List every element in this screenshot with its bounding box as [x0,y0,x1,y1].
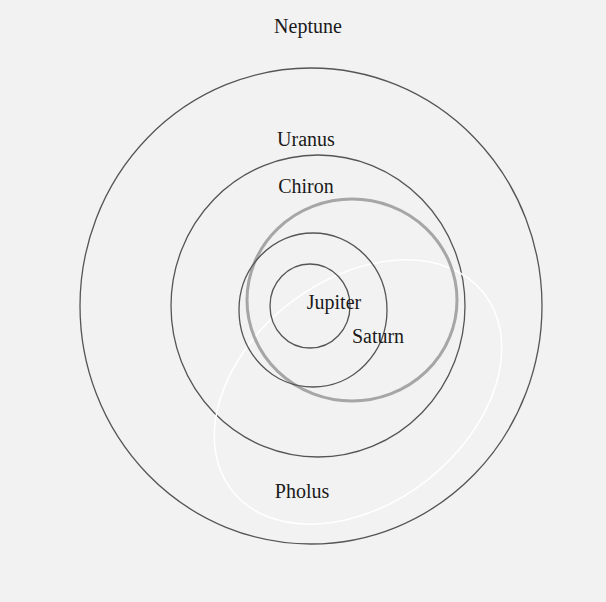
label-saturn: Saturn [352,325,404,347]
label-pholus: Pholus [275,480,330,502]
label-neptune: Neptune [274,15,342,38]
label-jupiter: Jupiter [307,291,362,314]
solar-orbits-diagram: Neptune Uranus Chiron Jupiter Saturn Pho… [0,0,606,602]
label-uranus: Uranus [277,128,335,150]
label-chiron: Chiron [278,175,334,197]
diagram-background [0,0,606,602]
